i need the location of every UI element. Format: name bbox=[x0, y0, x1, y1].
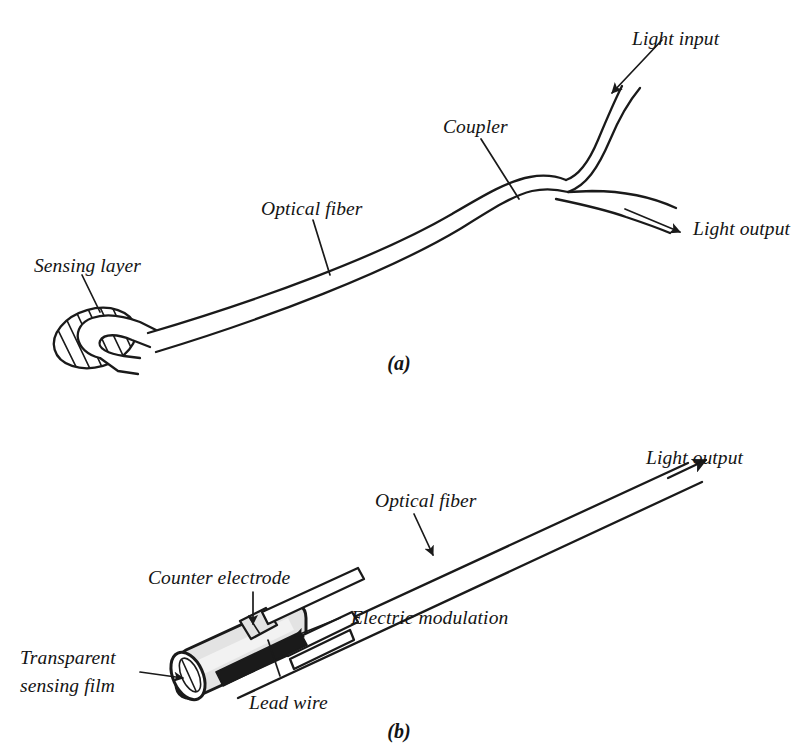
optical-fiber-leader-line-a bbox=[313, 220, 330, 275]
caption-panel-b: (b) bbox=[387, 720, 410, 743]
probe-tip-assembly bbox=[164, 568, 364, 705]
label-coupler: Coupler bbox=[443, 116, 508, 137]
label-light-output-b: Light output bbox=[645, 447, 744, 468]
optical-fiber-leader-line-b bbox=[414, 514, 433, 555]
sensing-layer-tip bbox=[47, 283, 156, 390]
label-sensing-layer: Sensing layer bbox=[34, 255, 141, 276]
sensing-layer-leader-line bbox=[82, 275, 100, 312]
label-light-input: Light input bbox=[631, 28, 720, 49]
caption-panel-a: (a) bbox=[387, 352, 410, 375]
label-light-output-a: Light output bbox=[692, 218, 791, 239]
label-transparent-sensing-film-line1: Transparent bbox=[20, 647, 116, 668]
label-optical-fiber-a: Optical fiber bbox=[261, 198, 363, 219]
figure-root: Light input Light output Coupler Optical… bbox=[0, 0, 812, 753]
label-optical-fiber-b: Optical fiber bbox=[375, 490, 477, 511]
panel-a-diagram: Light input Light output Coupler Optical… bbox=[0, 0, 812, 753]
coupler-junction bbox=[556, 86, 676, 233]
label-counter-electrode: Counter electrode bbox=[148, 567, 291, 588]
label-transparent-sensing-film-line2: sensing film bbox=[20, 675, 115, 696]
label-lead-wire: Lead wire bbox=[248, 692, 328, 713]
label-electric-modulation: Electric modulation bbox=[350, 607, 508, 628]
